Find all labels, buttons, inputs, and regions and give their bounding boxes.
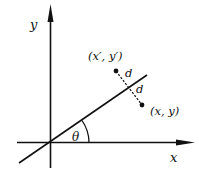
reflection-line [19, 75, 147, 163]
x-axis-label: x [170, 151, 177, 164]
angle-arc [82, 121, 89, 143]
angle-label: θ [72, 131, 79, 143]
distance-label-upper: d [125, 68, 132, 80]
y-axis-label: y [30, 18, 37, 31]
reflected-point [114, 69, 119, 74]
x-axis-arrowhead-icon [176, 140, 195, 146]
original-point-label: (x, y) [150, 106, 179, 118]
original-point [140, 103, 145, 108]
reflected-point-label: (x′, y′) [88, 51, 123, 63]
y-axis-arrowhead-icon [48, 4, 54, 22]
distance-label-lower: d [136, 84, 143, 96]
